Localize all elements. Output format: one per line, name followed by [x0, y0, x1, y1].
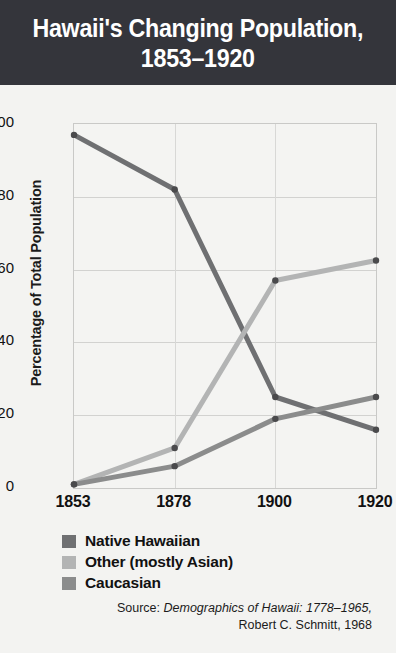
series-lines [74, 124, 376, 488]
legend-label: Other (mostly Asian) [85, 553, 233, 571]
page-title: Hawaii's Changing Population, 1853–1920 [23, 13, 372, 73]
source-work-title: Demographics of Hawaii: 1778–1965, [164, 601, 372, 615]
source-author: Robert C. Schmitt, 1968 [0, 617, 372, 634]
legend-item: Caucasian [62, 573, 233, 593]
data-point [373, 427, 379, 433]
x-tick-1900: 1900 [239, 493, 309, 511]
data-point [373, 394, 379, 400]
y-tick-80: 80 [0, 186, 14, 203]
x-tick-1920: 1920 [340, 493, 396, 511]
chart-legend: Native HawaiianOther (mostly Asian)Cauca… [62, 531, 233, 594]
legend-label: Native Hawaiian [85, 532, 200, 550]
title-line-1: Hawaii's Changing Population, [33, 14, 364, 42]
legend-swatch-icon [62, 556, 76, 569]
title-line-2: 1853–1920 [33, 43, 364, 73]
y-tick-40: 40 [0, 331, 14, 348]
source-note: Source: Demographics of Hawaii: 1778–196… [0, 600, 384, 634]
y-axis-title: Percentage of Total Population [28, 143, 44, 423]
plot-area [73, 123, 377, 489]
data-point [171, 445, 177, 451]
y-tick-20: 20 [0, 404, 14, 421]
series-line-native-hawaiian [74, 135, 376, 430]
legend-item: Other (mostly Asian) [62, 552, 233, 572]
series-line-caucasian [74, 397, 376, 484]
data-point [373, 257, 379, 263]
y-tick-0: 0 [0, 477, 14, 494]
data-point [272, 416, 278, 422]
data-point [171, 186, 177, 192]
chart-header-band: Hawaii's Changing Population, 1853–1920 [0, 0, 396, 85]
data-point [71, 481, 77, 487]
chart-container: Percentage of Total Population 020406080… [0, 85, 396, 653]
source-prefix: Source: [117, 601, 164, 615]
x-tick-1878: 1878 [139, 493, 209, 511]
data-point [71, 132, 77, 138]
legend-label: Caucasian [85, 574, 161, 592]
legend-item: Native Hawaiian [62, 531, 233, 551]
y-tick-60: 60 [0, 259, 14, 276]
y-tick-100: 100 [0, 113, 14, 130]
legend-swatch-icon [62, 577, 76, 590]
legend-swatch-icon [62, 535, 76, 548]
data-point [272, 277, 278, 283]
data-point [272, 394, 278, 400]
data-point [171, 463, 177, 469]
x-tick-1853: 1853 [38, 493, 108, 511]
